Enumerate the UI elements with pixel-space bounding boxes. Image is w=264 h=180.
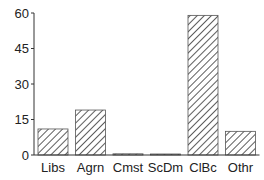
y-tick-label: 30 — [15, 77, 29, 92]
x-tick-label: ClBc — [189, 160, 217, 175]
bar-othr — [226, 131, 256, 155]
x-tick-label: Libs — [41, 160, 65, 175]
x-tick-label: Cmst — [113, 160, 144, 175]
x-tick-label: ScDm — [148, 160, 183, 175]
bars — [38, 15, 256, 155]
x-axis: LibsAgrnCmstScDmClBcOthr — [34, 155, 260, 175]
x-tick-label: Agrn — [77, 160, 104, 175]
y-tick-label: 0 — [22, 148, 29, 163]
x-tick-label: Othr — [228, 160, 254, 175]
bar-clbc — [188, 15, 218, 155]
bar-chart: 015304560 LibsAgrnCmstScDmClBcOthr — [0, 0, 264, 180]
y-tick-label: 60 — [15, 6, 29, 21]
y-tick-label: 45 — [15, 41, 29, 56]
bar-libs — [38, 129, 68, 155]
bar-agrn — [76, 110, 106, 155]
y-tick-label: 15 — [15, 112, 29, 127]
y-axis: 015304560 — [15, 6, 34, 163]
